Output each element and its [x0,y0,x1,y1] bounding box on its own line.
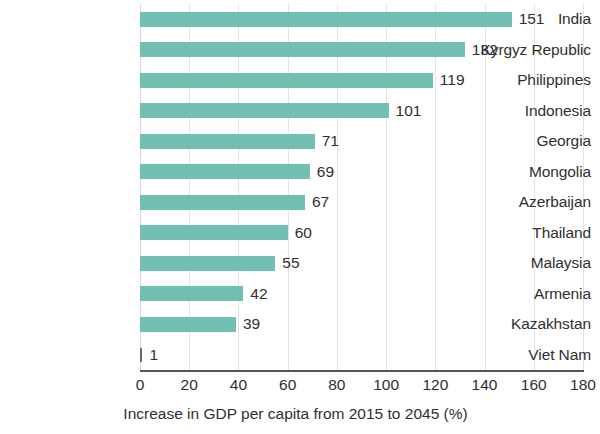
bar [140,256,275,271]
bar-row: Indonesia101 [0,96,591,127]
bar-track: 55 [140,248,583,279]
x-tick-label: 80 [315,376,359,394]
x-tick-label: 0 [118,376,162,394]
bar-value-label: 60 [288,218,312,249]
bar-value-label: 67 [305,187,329,218]
bar [140,164,310,179]
bar-row: Mongolia69 [0,157,591,188]
bar-track: 39 [140,309,583,340]
bar-row: Kazakhstan39 [0,309,591,340]
bar-row: Malaysia55 [0,248,591,279]
bar-track: 42 [140,279,583,310]
x-tick-label: 120 [413,376,457,394]
bar-track: 119 [140,65,583,96]
bar-track: 60 [140,218,583,249]
bar-row: Georgia71 [0,126,591,157]
x-tick-label: 60 [266,376,310,394]
x-tick-label: 20 [167,376,211,394]
bar-value-label: 42 [243,279,267,310]
bar [140,195,305,210]
bar-value-label: 39 [236,309,260,340]
bar-row: Viet Nam1 [0,340,591,371]
x-axis-title: Increase in GDP per capita from 2015 to … [0,405,591,423]
bar-row: Thailand60 [0,218,591,249]
bar-track: 69 [140,157,583,188]
bar-row: Kyrgyz Republic132 [0,35,591,66]
x-tick-label: 100 [364,376,408,394]
x-tick-label: 40 [216,376,260,394]
bar-row: Philippines119 [0,65,591,96]
bar-value-label: 1 [142,340,158,371]
x-tick-label: 180 [561,376,600,394]
bar-track: 132 [140,35,583,66]
bar [140,42,465,57]
bar-track: 101 [140,96,583,127]
bar-value-label: 69 [310,157,334,188]
bar-value-label: 151 [512,4,545,35]
x-axis-line [140,370,584,372]
bar-track: 151 [140,4,583,35]
bar [140,286,243,301]
x-tick-label: 160 [512,376,556,394]
bar [140,103,389,118]
bar-row: India151 [0,4,591,35]
bar-track: 71 [140,126,583,157]
bar-value-label: 119 [433,65,465,96]
bar-track: 1 [140,340,583,371]
bar [140,12,512,27]
bar-row: Armenia42 [0,279,591,310]
bar-value-label: 71 [315,126,339,157]
bar-value-label: 101 [389,96,422,127]
x-tick-label: 140 [463,376,507,394]
bar [140,73,433,88]
bar [140,134,315,149]
bar-value-label: 55 [275,248,299,279]
bar [140,317,236,332]
bar [140,225,288,240]
bar-value-label: 132 [465,35,498,66]
bar-track: 67 [140,187,583,218]
bar-row: Azerbaijan67 [0,187,591,218]
